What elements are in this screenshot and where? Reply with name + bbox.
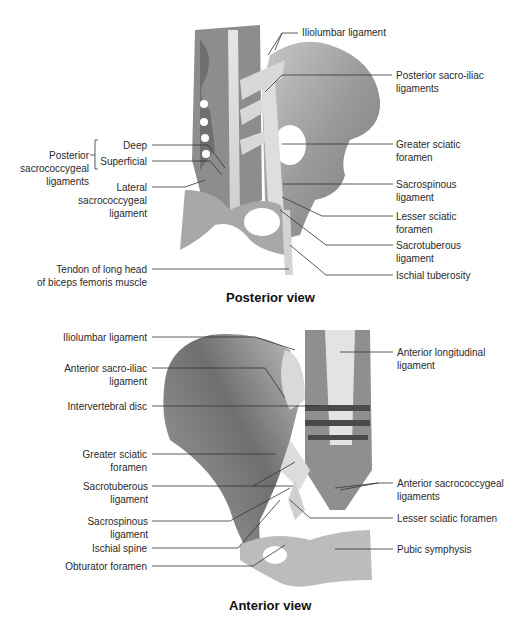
label-obturator-foramen: Obturator foramen xyxy=(65,560,147,573)
label-intervertebral-disc: Intervertebral disc xyxy=(68,400,147,413)
label-greater-sciatic-foramen-anterior: Greater sciatic foramen xyxy=(83,448,147,474)
label-pubic-symphysis: Pubic symphysis xyxy=(397,543,471,556)
label-anterior-sacrococcygeal-ligaments: Anterior sacrococcygeal ligaments xyxy=(397,477,504,503)
label-posterior-sacroiliac-ligaments: Posterior sacro-iliac ligaments xyxy=(396,69,484,95)
label-ischial-tuberosity: Ischial tuberosity xyxy=(396,269,470,282)
anterior-view-title: Anterior view xyxy=(229,598,311,613)
label-iliolumbar-ligament-anterior: Iliolumbar ligament xyxy=(63,331,147,344)
label-sacrotuberous-ligament-anterior: Sacrotuberous ligament xyxy=(83,480,148,506)
label-deep: Deep xyxy=(123,139,147,152)
label-anterior-sacroiliac-ligament: Anterior sacro-iliac ligament xyxy=(64,362,147,388)
label-sacrotuberous-ligament-posterior: Sacrotuberous ligament xyxy=(396,239,461,265)
label-sacrospinous-ligament-posterior: Sacrospinous ligament xyxy=(396,178,457,204)
label-sacrospinous-ligament-anterior: Sacrospinous ligament xyxy=(87,515,148,541)
label-iliolumbar-ligament-posterior: Iliolumbar ligament xyxy=(302,26,386,39)
label-superficial: Superficial xyxy=(100,155,147,168)
label-lesser-sciatic-foramen-anterior: Lesser sciatic foramen xyxy=(397,512,497,525)
label-anterior-longitudinal-ligament: Anterior longitudinal ligament xyxy=(397,346,485,372)
label-lateral-sacrococcygeal-ligament: Lateral sacrococcygeal ligament xyxy=(78,181,147,220)
label-lesser-sciatic-foramen-posterior: Lesser sciatic foramen xyxy=(396,210,457,236)
label-ischial-spine: Ischial spine xyxy=(92,542,147,555)
label-greater-sciatic-foramen-posterior: Greater sciatic foramen xyxy=(396,138,460,164)
label-biceps-femoris-tendon: Tendon of long head of biceps femoris mu… xyxy=(37,263,147,289)
posterior-view-title: Posterior view xyxy=(226,290,315,305)
